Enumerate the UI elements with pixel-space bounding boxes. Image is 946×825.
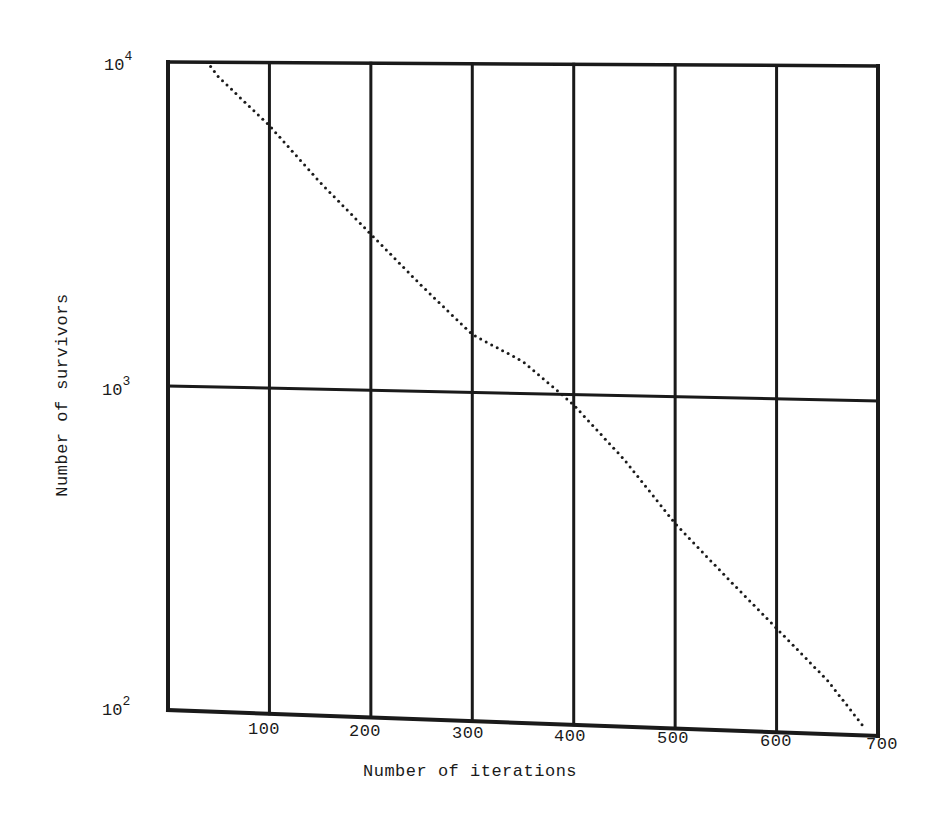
data-point-dot [311, 173, 314, 176]
data-point-dot [398, 262, 401, 265]
data-point-dot [455, 318, 458, 321]
grid-lines [168, 63, 878, 733]
data-point-dot [838, 694, 841, 697]
data-point-dot [474, 335, 477, 338]
x-tick-label-500: 500 [657, 729, 689, 748]
data-point-dot [857, 718, 860, 721]
data-point-dot [209, 65, 212, 68]
data-point-dot [731, 582, 734, 585]
data-point-dot [853, 713, 856, 716]
data-point-dot [354, 218, 357, 221]
chart-plot-area [0, 0, 946, 825]
data-point-dot [697, 546, 700, 549]
data-point-dot [595, 429, 598, 432]
x-tick-label-300: 300 [452, 724, 484, 743]
data-point-dot [709, 559, 712, 562]
data-point-dot [667, 514, 670, 517]
data-point-dot [376, 240, 379, 243]
data-point-dot [748, 599, 751, 602]
data-point-dot [722, 573, 725, 576]
data-point-dot [252, 109, 255, 112]
data-point-dot [257, 114, 260, 117]
data-point-dot [565, 397, 568, 400]
data-point-dot [213, 70, 216, 73]
x-tick-label-400: 400 [554, 727, 586, 746]
data-point-dot [363, 226, 366, 229]
data-point-dot [740, 591, 743, 594]
data-point-dot [394, 257, 397, 260]
x-tick-label-100: 100 [248, 720, 280, 739]
data-point-dot [324, 187, 327, 190]
gridline-y-1000 [168, 386, 878, 401]
data-point-dot [570, 402, 573, 405]
data-point-dot [485, 341, 488, 344]
data-point-dot [316, 178, 319, 181]
data-point-dot [648, 490, 651, 493]
data-point-dot [727, 577, 730, 580]
data-point-dot [429, 292, 432, 295]
data-point-dot [299, 159, 302, 162]
data-point-dot [640, 480, 643, 483]
data-point-dot [701, 550, 704, 553]
frame-top [168, 62, 878, 66]
data-point-dot [283, 141, 286, 144]
data-point-dot [243, 101, 246, 104]
data-point-dot [612, 447, 615, 450]
data-point-dot [226, 84, 229, 87]
data-point-dot [600, 433, 603, 436]
data-point-dot [591, 424, 594, 427]
data-point-dot [490, 343, 493, 346]
data-point-dot [518, 358, 521, 361]
data-point-dot [341, 204, 344, 207]
data-point-dot [266, 122, 269, 125]
data-point-dot [692, 541, 695, 544]
data-point-dot [783, 635, 786, 638]
data-point-dot [333, 195, 336, 198]
data-point-dot [561, 393, 564, 396]
data-point-dot [424, 288, 427, 291]
data-point-dot [464, 327, 467, 330]
data-point-dot [621, 456, 624, 459]
data-point-dot [415, 279, 418, 282]
data-point-dot [248, 105, 251, 108]
data-point-dot [389, 253, 392, 256]
data-point-dot [501, 349, 504, 352]
data-point-dot [663, 509, 666, 512]
data-point-dot [753, 604, 756, 607]
data-point-dot [604, 438, 607, 441]
data-point-dot [367, 231, 370, 234]
data-point-dot [381, 244, 384, 247]
data-point-dot [735, 586, 738, 589]
data-point-dot [587, 419, 590, 422]
data-point-dot [411, 275, 414, 278]
data-point-dot [479, 338, 482, 341]
data-point-dot [796, 648, 799, 651]
data-point-dot [337, 200, 340, 203]
y-tick-label-10e3: 103 [102, 377, 130, 400]
data-point-dot [274, 131, 277, 134]
data-point-dot [813, 666, 816, 669]
data-point-dot [407, 271, 410, 274]
data-point-dot [792, 644, 795, 647]
data-point-dot [608, 442, 611, 445]
data-point-dot [270, 127, 273, 130]
data-point-dot [460, 323, 463, 326]
data-point-dot [537, 373, 540, 376]
data-point-dot [688, 537, 691, 540]
y-tick-label-10e4: 104 [104, 52, 132, 75]
data-point-dot [842, 699, 845, 702]
data-point-dot [822, 675, 825, 678]
data-point-dot [800, 653, 803, 656]
data-point-dot [402, 266, 405, 269]
data-point-dot [359, 222, 362, 225]
data-point-dot [629, 465, 632, 468]
data-point-dot [546, 381, 549, 384]
data-point-dot [512, 355, 515, 358]
data-point-dot [346, 209, 349, 212]
data-point-dot [287, 145, 290, 148]
data-point-dot [239, 96, 242, 99]
data-point-dot [679, 528, 682, 531]
x-tick-label-600: 600 [760, 732, 792, 751]
data-point-dot [826, 679, 829, 682]
data-point-dot [574, 406, 577, 409]
